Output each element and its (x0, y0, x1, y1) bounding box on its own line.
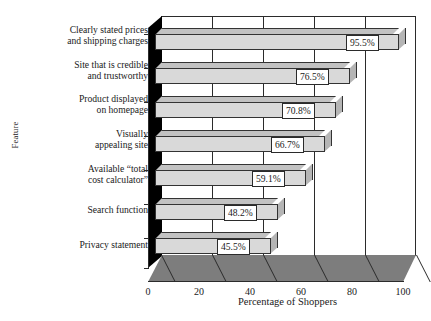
bar[interactable] (155, 232, 271, 248)
category-label: Search function (20, 204, 148, 215)
bar-value-label: 95.5% (346, 35, 379, 51)
y-tick (144, 204, 149, 205)
bar-value-label: 70.8% (282, 103, 315, 119)
category-label-line: Privacy statement (20, 239, 148, 250)
bar-value-label: 59.1% (252, 171, 285, 187)
category-label: Product displayed on homepage (20, 93, 148, 116)
category-label-line: appealing site (20, 139, 148, 150)
category-label-line: and trustworthy (20, 70, 148, 81)
x-axis-title: Percentage of Shoppers (155, 296, 420, 307)
plot-area: 0 20 40 60 80 100 (148, 16, 416, 268)
category-label-line: and shipping charges (20, 35, 148, 46)
y-tick (144, 136, 149, 137)
y-tick (144, 68, 149, 69)
category-label-group: Clearly stated prices and shipping charg… (20, 18, 148, 266)
category-label: Site that is credible and trustworthy (20, 59, 148, 82)
category-label-line: Site that is credible (20, 59, 148, 70)
x-tick (416, 255, 431, 282)
category-label-line: cost calculator” (20, 174, 148, 185)
gridline-80 (365, 17, 366, 255)
category-label-line: Clearly stated prices (20, 24, 148, 35)
category-label-line: Search function (20, 204, 148, 215)
bar[interactable] (155, 198, 278, 214)
bar-value-label: 76.5% (296, 69, 329, 85)
category-label: Visually appealing site (20, 128, 148, 151)
category-label-line: Available “total (20, 163, 148, 174)
y-tick (144, 102, 149, 103)
y-tick (144, 238, 149, 239)
y-tick (144, 170, 149, 171)
bar-value-label: 66.7% (271, 137, 304, 153)
y-tick (144, 268, 149, 269)
category-label: Available “total cost calculator” (20, 163, 148, 186)
bar-chart: Feature Clearly stated prices and shippi… (0, 0, 431, 321)
bar-front-face (155, 238, 271, 254)
bar-value-label: 45.5% (217, 239, 250, 255)
category-label: Clearly stated prices and shipping charg… (20, 24, 148, 47)
bar-front-face (155, 204, 278, 220)
bar-value-label: 48.2% (224, 205, 257, 221)
y-axis-title: Feature (10, 100, 20, 170)
category-label-line: on homepage (20, 104, 148, 115)
y-tick (144, 34, 149, 35)
y-axis-line (148, 28, 149, 268)
category-label-line: Visually (20, 128, 148, 139)
category-label: Privacy statement (20, 239, 148, 250)
category-label-line: Product displayed (20, 93, 148, 104)
